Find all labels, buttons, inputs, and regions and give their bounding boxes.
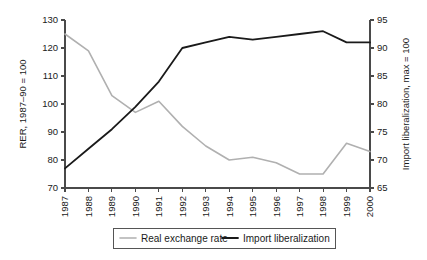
series-line-import-liberalization (65, 31, 370, 168)
x-axis-ticks: 1987198819891990199119921993199419951996… (59, 188, 375, 217)
right-tick-label: 70 (377, 154, 388, 165)
x-tick-label: 1996 (271, 196, 282, 217)
x-tick-label: 1987 (59, 196, 70, 217)
left-tick-label: 100 (42, 98, 58, 109)
left-tick-label: 70 (47, 182, 58, 193)
left-tick-label: 90 (47, 126, 58, 137)
x-tick-label: 1988 (83, 196, 94, 217)
x-tick-label: 1991 (153, 196, 164, 217)
legend-label-real-exchange-rate: Real exchange rate (141, 233, 228, 244)
x-tick-label: 1995 (247, 196, 258, 217)
series-lines (65, 31, 370, 174)
chart-container: 708090100110120130 65707580859095 198719… (0, 0, 427, 260)
left-tick-label: 130 (42, 14, 58, 25)
right-axis-ticks: 65707580859095 (370, 14, 388, 193)
left-tick-label: 110 (43, 70, 58, 81)
chart-svg: 708090100110120130 65707580859095 198719… (0, 0, 427, 260)
left-axis-ticks: 708090100110120130 (42, 14, 65, 193)
right-tick-label: 85 (377, 70, 388, 81)
right-axis-title: Import liberalization, max = 100 (400, 38, 411, 170)
right-tick-label: 80 (377, 98, 388, 109)
x-tick-label: 1993 (200, 196, 211, 217)
right-tick-label: 75 (377, 126, 388, 137)
right-tick-label: 90 (377, 42, 388, 53)
left-tick-label: 120 (42, 42, 58, 53)
x-tick-label: 1992 (177, 196, 188, 217)
left-tick-label: 80 (47, 154, 58, 165)
x-tick-label: 1999 (341, 196, 352, 217)
x-tick-label: 1998 (317, 196, 328, 217)
x-tick-label: 2000 (364, 196, 375, 217)
right-tick-label: 95 (377, 14, 388, 25)
left-axis-title: RER, 1987–90 = 100 (17, 60, 28, 149)
x-tick-label: 1994 (224, 196, 235, 217)
x-tick-label: 1989 (106, 196, 117, 217)
x-tick-label: 1990 (130, 196, 141, 217)
plot-area (65, 20, 370, 188)
right-tick-label: 65 (377, 182, 388, 193)
legend: Real exchange rate Import liberalization (113, 228, 335, 248)
series-line-real-exchange-rate (65, 34, 370, 174)
x-tick-label: 1997 (294, 196, 305, 217)
legend-label-import-liberalization: Import liberalization (243, 233, 330, 244)
